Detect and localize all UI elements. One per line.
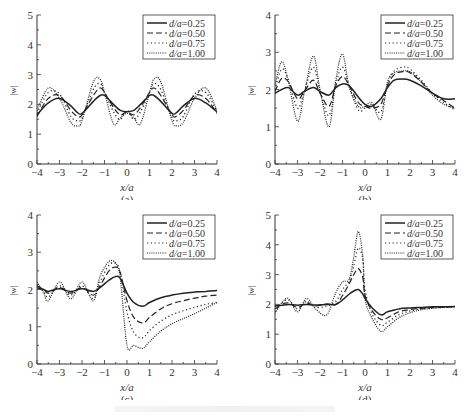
legend: d/a=0.25d/a=0.50d/a=0.75d/a=1.00 [381, 15, 453, 59]
x-tick-label: −2 [314, 366, 326, 378]
panel-label: (a) [121, 193, 134, 200]
chart-a: −4−3−2−101234012345x/a|w|(a)d/a=0.25d/a=… [0, 0, 238, 200]
chart-panel-d: −4−3−2−101234012345x/a|w|(d)d/a=0.25d/a=… [238, 200, 476, 400]
y-tick-label: 0 [266, 358, 272, 370]
y-tick-label: 3 [266, 46, 272, 58]
y-tick-label: 2 [28, 98, 34, 110]
x-tick-label: −2 [76, 166, 88, 178]
x-tick-label: 3 [192, 366, 198, 378]
legend-label: d/a=1.00 [407, 248, 443, 259]
chart-panel-c: −4−3−2−10123401234x/a|w|(c)d/a=0.25d/a=0… [0, 200, 238, 400]
x-tick-label: 2 [169, 166, 175, 178]
x-tick-label: −3 [292, 366, 304, 378]
x-tick-label: −1 [337, 366, 349, 378]
x-tick-label: −1 [337, 166, 349, 178]
y-tick-label: 2 [28, 284, 34, 296]
y-tick-label: 0 [28, 358, 34, 370]
y-tick-label: 2 [266, 298, 272, 310]
x-tick-label: −3 [54, 366, 66, 378]
x-tick-label: 2 [407, 366, 413, 378]
x-tick-label: −1 [99, 166, 111, 178]
x-tick-label: 0 [362, 166, 368, 178]
chart-panel-b: −4−3−2−10123401234x/a|w|(b)d/a=0.25d/a=0… [238, 0, 476, 200]
legend: d/a=0.25d/a=0.50d/a=0.75d/a=1.00 [381, 215, 453, 259]
x-tick-label: 4 [452, 166, 458, 178]
x-axis-label: x/a [119, 181, 134, 193]
x-axis-label: x/a [357, 181, 372, 193]
x-tick-label: 1 [385, 166, 391, 178]
x-tick-label: −3 [292, 166, 304, 178]
series-group [37, 260, 217, 350]
x-tick-label: −3 [54, 166, 66, 178]
x-tick-label: 0 [124, 166, 130, 178]
x-tick-label: 2 [407, 166, 413, 178]
y-tick-label: 5 [266, 209, 272, 221]
series-line-2 [275, 71, 455, 108]
y-tick-label: 2 [266, 84, 272, 96]
x-tick-label: 1 [147, 366, 153, 378]
series-line-1 [275, 289, 455, 315]
series-group [275, 54, 455, 127]
x-tick-label: −2 [314, 166, 326, 178]
legend-label: d/a=1.00 [407, 48, 443, 59]
x-tick-label: 3 [430, 166, 436, 178]
x-tick-label: 0 [362, 366, 368, 378]
series-line-1 [275, 79, 455, 107]
x-axis-label: x/a [119, 381, 134, 393]
chart-c: −4−3−2−10123401234x/a|w|(c)d/a=0.25d/a=0… [0, 200, 238, 400]
x-tick-label: −1 [99, 366, 111, 378]
legend-label: d/a=1.00 [169, 48, 205, 59]
series-line-4 [37, 77, 217, 126]
x-tick-label: 2 [169, 366, 175, 378]
y-tick-label: 4 [266, 239, 272, 251]
y-tick-label: 4 [266, 9, 272, 21]
y-tick-label: 3 [266, 269, 272, 281]
x-tick-label: 4 [214, 366, 220, 378]
x-tick-label: 4 [214, 166, 220, 178]
y-tick-label: 0 [28, 158, 34, 170]
x-tick-label: 1 [385, 366, 391, 378]
y-tick-label: 3 [28, 246, 34, 258]
x-tick-label: 4 [452, 366, 458, 378]
y-tick-label: 4 [28, 209, 34, 221]
y-axis-label: |w| [246, 285, 256, 295]
x-tick-label: 3 [430, 366, 436, 378]
panel-label: (d) [359, 393, 372, 400]
series-line-4 [275, 54, 455, 127]
y-tick-label: 1 [266, 328, 272, 340]
y-tick-label: 4 [28, 39, 34, 51]
y-axis-label: |w| [8, 85, 18, 95]
x-tick-label: −2 [76, 366, 88, 378]
series-line-2 [37, 267, 217, 323]
y-tick-label: 1 [28, 321, 34, 333]
panel-label: (c) [121, 393, 134, 400]
series-line-1 [37, 95, 217, 115]
x-axis-label: x/a [357, 381, 372, 393]
series-group [37, 77, 217, 126]
series-line-4 [37, 260, 217, 350]
chart-d: −4−3−2−101234012345x/a|w|(d)d/a=0.25d/a=… [238, 200, 476, 400]
y-tick-label: 0 [266, 158, 272, 170]
y-tick-label: 5 [28, 9, 34, 21]
chart-panel-a: −4−3−2−101234012345x/a|w|(a)d/a=0.25d/a=… [0, 0, 238, 200]
y-tick-label: 1 [28, 128, 34, 140]
series-line-3 [37, 83, 217, 121]
legend: d/a=0.25d/a=0.50d/a=0.75d/a=1.00 [143, 15, 215, 59]
panel-label: (b) [359, 193, 372, 200]
chart-b: −4−3−2−10123401234x/a|w|(b)d/a=0.25d/a=0… [238, 0, 476, 200]
legend-label: d/a=1.00 [169, 248, 205, 259]
x-tick-label: 1 [147, 166, 153, 178]
x-tick-label: 0 [124, 366, 130, 378]
y-tick-label: 1 [266, 121, 272, 133]
x-tick-label: 3 [192, 166, 198, 178]
legend: d/a=0.25d/a=0.50d/a=0.75d/a=1.00 [143, 215, 215, 259]
y-axis-label: |w| [246, 85, 256, 95]
y-axis-label: |w| [8, 285, 18, 295]
figure-caption-faint [115, 406, 335, 412]
y-tick-label: 3 [28, 69, 34, 81]
